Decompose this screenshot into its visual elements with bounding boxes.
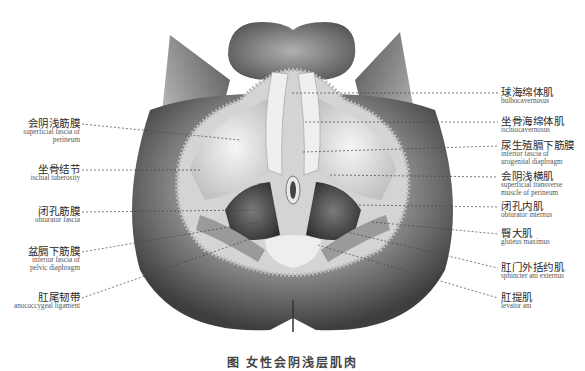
label-en: levator ani (501, 303, 533, 311)
label-en: ischial tuberosity (31, 175, 80, 183)
label-en: superficial fascia of perineum (2, 129, 80, 144)
label-en: inferior fascia of pelvic diaphragm (18, 257, 80, 272)
label-ischial-tuberosity: 坐骨结节 ischial tuberosity (31, 164, 80, 183)
label-en: obturator internus (501, 212, 552, 220)
label-superficial-transverse-muscle-of-perineum: 会阴浅横肌 superficial transverse muscle of p… (501, 171, 571, 197)
label-levator-ani: 肛提肌 levator ani (501, 292, 533, 311)
label-obturator-internus: 闭孔内肌 obturator internus (501, 201, 552, 220)
label-sphincter-ani-externus: 肛门外括约肌 sphincter ani externus (501, 262, 564, 281)
label-anococcygeal-ligament: 肛尾韧带 anococcygeal ligament (14, 292, 80, 311)
label-ischiocavernosus: 坐骨海绵体肌 ischiocavernosus (501, 116, 564, 135)
label-superficial-fascia-of-perineum: 会阴浅筋膜 superficial fascia of perineum (2, 118, 80, 144)
label-obturator-fascia: 闭孔筋膜 obturator fascia (35, 206, 80, 225)
label-en: anococcygeal ligament (14, 303, 80, 311)
label-en: sphincter ani externus (501, 273, 564, 281)
label-en: ischiocavernosus (501, 127, 564, 135)
label-en: gluteus maximus (501, 239, 550, 247)
label-inferior-fascia-of-urogenital-diaphragm: 尿生殖膈下筋膜 inferior fascia of urogenital di… (501, 140, 575, 166)
figure-caption: 图 女性会阴浅层肌肉 (0, 353, 585, 371)
label-bulbocavernosus: 球海绵体肌 bulbocavernosus (501, 87, 554, 106)
label-inferior-fascia-of-pelvic-diaphragm: 盆膈下筋膜 inferior fascia of pelvic diaphrag… (18, 246, 80, 272)
label-en: bulbocavernosus (501, 98, 554, 106)
label-en: superficial transverse muscle of perineu… (501, 182, 571, 197)
label-gluteus-maximus: 臀大肌 gluteus maximus (501, 228, 550, 247)
label-en: inferior fascia of urogenital diaphragm (501, 151, 571, 166)
label-en: obturator fascia (35, 217, 80, 225)
